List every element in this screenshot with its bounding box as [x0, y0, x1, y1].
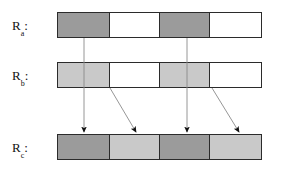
register-cell-rb-0: [57, 62, 110, 88]
row-label-rb-colon: :: [25, 68, 29, 83]
register-merge-diagram: Ra: Rb: Rc:: [0, 0, 281, 170]
connector-rb-to-rc-diagonal-right: [212, 88, 239, 132]
row-label-rb-subscript: b: [21, 79, 25, 88]
register-cell-ra-0: [57, 12, 110, 38]
row-label-rb-base: R: [12, 68, 21, 83]
connector-rb-to-rc-diagonal-left: [110, 88, 136, 132]
row-label-rc-subscript: c: [21, 151, 25, 160]
register-cell-ra-2: [159, 12, 210, 38]
register-cell-rb-3: [209, 62, 262, 88]
register-cell-ra-1: [109, 12, 160, 38]
row-label-ra-subscript: a: [21, 29, 25, 38]
row-label-rc: Rc:: [12, 140, 28, 158]
row-label-ra-colon: :: [24, 18, 28, 33]
register-cell-rc-3: [209, 134, 262, 160]
row-label-rc-colon: :: [24, 140, 28, 155]
register-cell-ra-3: [209, 12, 262, 38]
register-bar-rc: [57, 134, 265, 160]
register-cell-rc-1: [109, 134, 160, 160]
row-label-rc-base: R: [12, 140, 21, 155]
row-label-rb: Rb:: [12, 68, 28, 86]
register-bar-rb: [57, 62, 265, 88]
register-cell-rc-0: [57, 134, 110, 160]
register-cell-rb-1: [109, 62, 160, 88]
register-bar-ra: [57, 12, 265, 38]
register-cell-rb-2: [159, 62, 210, 88]
register-cell-rc-2: [159, 134, 210, 160]
row-label-ra-base: R: [12, 18, 21, 33]
row-label-ra: Ra:: [12, 18, 28, 36]
